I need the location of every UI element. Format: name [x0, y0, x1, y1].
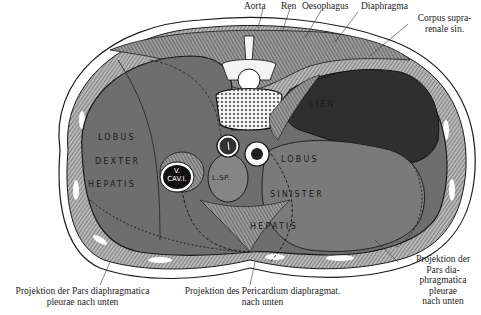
label-lobus-sinister-1: LOBUS	[281, 155, 319, 164]
label-lien: LIEN	[309, 100, 336, 109]
label-lobus-spigelii: L.SP.	[212, 174, 230, 182]
label-aorta: Aorta	[244, 1, 266, 12]
label-oesophagus: Oesophagus	[302, 1, 348, 12]
label-vena-cava: V. CAV.I.	[164, 167, 190, 183]
label-lobus-dexter-1: LOBUS	[98, 133, 136, 142]
label-lobus-sinister-2: SINISTER	[270, 190, 324, 199]
aorta-vessel	[217, 135, 239, 157]
label-lobus-dexter-2: DEXTER	[95, 157, 140, 166]
label-projection-pericardium: Projektion des Pericardium diaphragmat. …	[170, 286, 355, 307]
label-lobus-dexter-3: HEPATIS	[88, 180, 136, 189]
label-corpus-suprarenale: Corpus supra- renale sin.	[408, 13, 481, 34]
label-ren: Ren	[281, 1, 296, 12]
label-projection-pleura-left: Projektion der Pars diaphragmatica pleur…	[0, 286, 165, 307]
label-diaphragma: Diaphragma	[361, 1, 408, 12]
label-projection-pleura-right: Projektion der Pars dia- phragmatica ple…	[405, 254, 481, 307]
oesophagus-vessel	[245, 142, 269, 166]
label-lobus-sinister-3: HEPATIS	[250, 222, 298, 231]
